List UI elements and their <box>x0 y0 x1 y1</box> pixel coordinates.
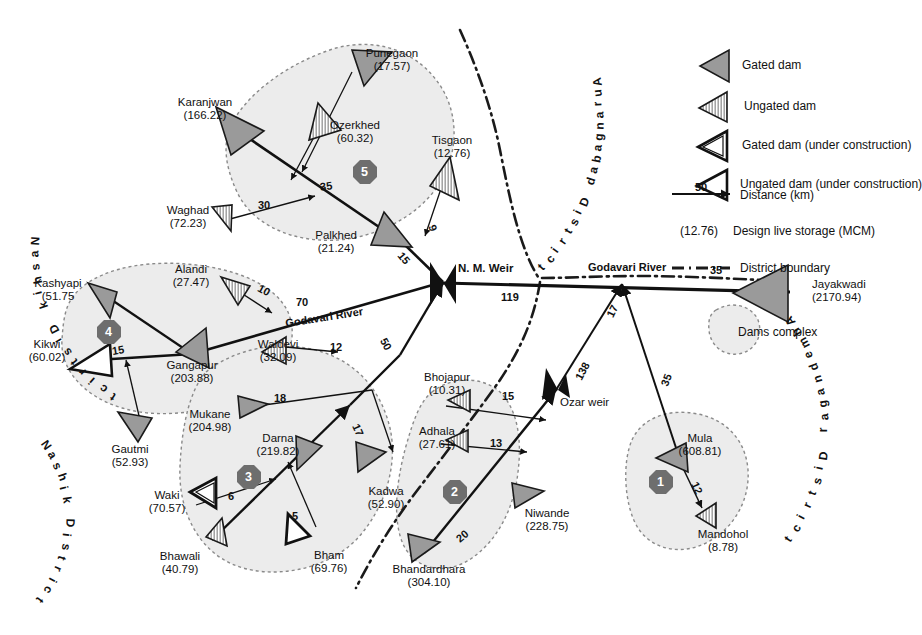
dam-label-bhandardhara: Bhandardhara(304.10) <box>374 563 484 588</box>
distance-waki: 6 <box>228 490 234 502</box>
legend-label-district-boundary: District boundary <box>740 261 830 275</box>
district-label-char: a <box>27 250 41 257</box>
complex-badge-label-5: 5 <box>361 165 368 179</box>
legend-icon-ungated-dam <box>699 92 727 122</box>
distance-adhala: 13 <box>490 437 502 449</box>
dam-label-punegaon: Punegaon(17.57) <box>352 47 432 72</box>
distance-nmweir-119: 119 <box>501 291 519 303</box>
dam-label-gangapur: Gangapur(203.88) <box>146 359 238 384</box>
legend-sample-distance: 50 <box>695 181 707 193</box>
dam-label-palkhed: Palkhed(21.24) <box>294 229 378 254</box>
district-boundary-east <box>542 276 760 280</box>
dam-label-adhala: Adhala(27.61) <box>398 425 476 450</box>
dam-label-gautmi: Gautmi(52.93) <box>92 443 168 468</box>
distance-mukane: 18 <box>274 392 286 404</box>
district-label-char: u <box>591 88 606 97</box>
district-label-char: a <box>592 111 606 118</box>
dam-label-waldevi: Waldevi(32.09) <box>238 338 318 363</box>
legend-label-gated-dam-uc: Gated dam (under construction) <box>742 138 911 152</box>
dam-label-waghad: Waghad(72.23) <box>152 204 224 229</box>
weir-nm[interactable] <box>430 262 456 306</box>
dam-label-bham: Bham(69.76) <box>296 549 362 574</box>
dam-gautmi[interactable] <box>118 412 152 442</box>
distance-godavari-70: 70 <box>296 296 308 308</box>
distance-bham: 5 <box>292 510 298 522</box>
district-label-char: r <box>591 101 605 107</box>
district-label-char: D <box>816 450 831 461</box>
dam-label-karanjwan: Karanjwan(166.22) <box>155 96 255 121</box>
complex-badge-label-1: 1 <box>657 475 664 489</box>
river-label-godavari-right: Godavari River <box>588 261 666 273</box>
district-label-char: g <box>592 133 607 141</box>
distance-bhojapur: 15 <box>502 390 514 402</box>
legend-label-gated-dam: Gated dam <box>742 58 801 72</box>
distance-waldevi: 12 <box>330 341 342 353</box>
complex-badge-label-4: 4 <box>105 325 112 339</box>
dam-label-ozerkhed: Ozerkhed(60.32) <box>312 119 398 144</box>
legend-sample-storage: (12.76) <box>680 224 718 238</box>
distance-jayakwadi-35: 35 <box>710 264 722 276</box>
dam-label-waki: Waki(70.57) <box>134 489 200 514</box>
district-label-char: a <box>817 413 831 421</box>
district-label-char: r <box>816 428 830 433</box>
links-ozar <box>556 284 622 390</box>
district-label-char: n <box>592 122 606 130</box>
dam-label-tisgaon: Tisgaon(12.76) <box>414 134 490 159</box>
dam-label-bhawali: Bhawali(40.79) <box>140 550 220 575</box>
dam-label-kadwa: Kadwa(52.90) <box>348 485 424 510</box>
distance-waghad: 30 <box>258 199 270 211</box>
legend-label-storage: Design live storage (MCM) <box>733 224 875 238</box>
legend-icon-gated-dam <box>700 50 729 82</box>
complex-badge-label-2: 2 <box>451 485 458 499</box>
district-label-char: D <box>63 519 77 528</box>
dam-label-mukane: Mukane(204.98) <box>168 408 252 433</box>
district-label-char: s <box>28 263 43 271</box>
dam-label-niwande: Niwande(228.75) <box>503 507 591 532</box>
weir-label-nm: N. M. Weir <box>458 262 513 274</box>
legend-label-distance: Distance (km) <box>740 188 814 202</box>
legend-label-ungated-dam: Ungated dam <box>744 99 816 113</box>
district-label-char <box>60 509 74 513</box>
dam-label-bhojapur: Bhojapur(10.31) <box>406 371 488 396</box>
district-label-char: N <box>28 236 42 245</box>
dam-label-mula: Mula(608.81) <box>662 432 738 457</box>
distance-kikwi: 15 <box>111 343 125 357</box>
dam-label-darna: Darna(219.82) <box>238 432 318 457</box>
legend-icon-gated-dam-uc <box>698 131 727 161</box>
distance-karanjwan: 35 <box>319 179 333 193</box>
dam-label-mandohol: Mandohol(8.78) <box>680 528 766 553</box>
dam-label-jayakwadi: Jayakwadi(2170.94) <box>812 278 912 303</box>
dam-niwande[interactable] <box>512 483 544 508</box>
complex-badge-label-3: 3 <box>245 470 252 484</box>
dam-label-alandi: Alandi(27.47) <box>152 263 230 288</box>
weir-label-ozar: Ozar weir <box>560 396 609 408</box>
